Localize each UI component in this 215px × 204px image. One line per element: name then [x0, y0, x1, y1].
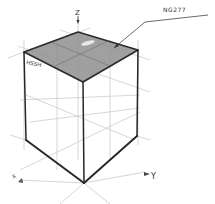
y-arrow-icon: [144, 172, 150, 176]
cube-sketch: Z Y X NG277 HSSH: [0, 0, 215, 204]
callout-leader: [114, 15, 208, 48]
z-axis-label: Z: [75, 9, 80, 17]
callout-text: NG277: [163, 6, 186, 13]
y-axis-label: Y: [150, 172, 156, 181]
top-face: [24, 32, 138, 82]
x-axis-label: X: [11, 172, 17, 179]
x-arrow-icon: [18, 178, 23, 183]
z-arrow-icon: [77, 20, 80, 24]
